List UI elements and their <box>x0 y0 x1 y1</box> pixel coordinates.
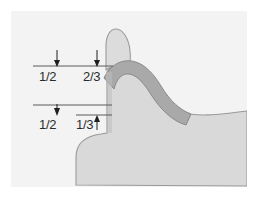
arrow-upper-right <box>94 50 100 67</box>
arrow-upper-left <box>54 50 60 67</box>
figure-root: 1/2 2/3 1/2 1/3 <box>0 0 269 214</box>
tissue-mass-shape <box>76 62 247 186</box>
label-upper-right-fraction: 2/3 <box>83 70 100 83</box>
label-lower-right-fraction: 1/3 <box>76 118 93 131</box>
arrow-lower-left <box>54 104 60 116</box>
diagram-canvas <box>0 0 269 214</box>
label-lower-left-fraction: 1/2 <box>39 118 56 131</box>
mass-left-flank <box>106 72 112 133</box>
arrow-lower-right <box>94 115 100 130</box>
label-upper-left-fraction: 1/2 <box>39 70 56 83</box>
